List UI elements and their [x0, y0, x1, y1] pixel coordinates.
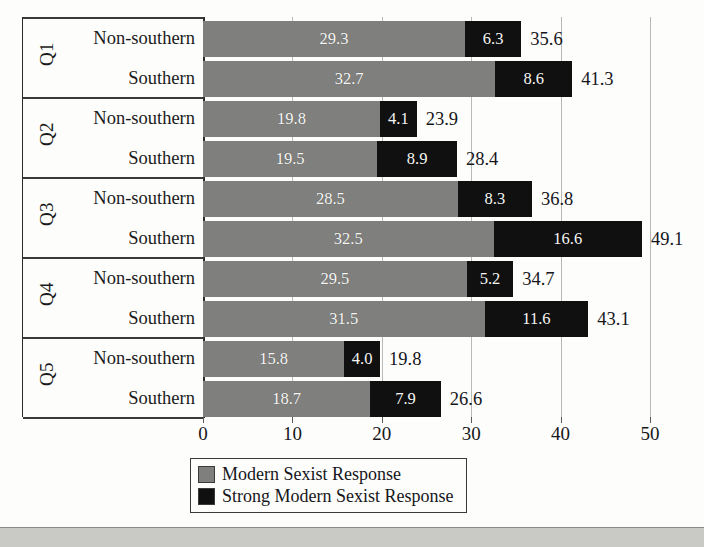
bar-value-modern: 28.5	[203, 191, 458, 208]
bar-segment-strong: 4.0	[344, 341, 380, 377]
group-label-text: Q5	[36, 362, 58, 386]
bar-segment-modern: 18.7	[203, 381, 370, 417]
bar-segment-modern: 29.5	[203, 261, 467, 297]
bar-row: 32.516.649.1	[203, 221, 650, 257]
legend-item: Modern Sexist Response	[198, 463, 454, 485]
group-label-text: Q1	[36, 42, 58, 66]
bar-total-label: 26.6	[450, 389, 482, 410]
legend-label: Modern Sexist Response	[222, 464, 401, 485]
row-label-q3-southern: Southern	[128, 228, 195, 249]
bar-row: 19.58.928.4	[203, 141, 650, 177]
row-label-q5-non-southern: Non-southern	[93, 348, 195, 369]
bar-value-strong: 4.0	[344, 351, 380, 368]
group-label-q5: Q5	[7, 363, 87, 385]
bar-total-label: 28.4	[466, 149, 498, 170]
bar-row: 15.84.019.8	[203, 341, 650, 377]
bar-row: 29.36.335.6	[203, 21, 650, 57]
bar-value-strong: 8.3	[458, 191, 532, 208]
gridline-50	[650, 17, 651, 417]
bar-segment-strong: 11.6	[485, 301, 589, 337]
bar-total-label: 36.8	[541, 189, 573, 210]
bar-segment-modern: 29.3	[203, 21, 465, 57]
bar-value-modern: 29.3	[203, 31, 465, 48]
bar-value-modern: 18.7	[203, 391, 370, 408]
group-separator	[23, 97, 204, 99]
bar-segment-modern: 32.7	[203, 61, 495, 97]
bar-value-strong: 5.2	[467, 271, 513, 288]
group-separator	[23, 177, 204, 179]
bar-segment-modern: 31.5	[203, 301, 485, 337]
bar-value-modern: 29.5	[203, 271, 467, 288]
row-label-q5-southern: Southern	[128, 388, 195, 409]
group-label-text: Q4	[36, 282, 58, 306]
bar-value-modern: 15.8	[203, 351, 344, 368]
group-label-text: Q2	[36, 122, 58, 146]
bar-value-strong: 4.1	[380, 111, 417, 128]
bar-row: 31.511.643.1	[203, 301, 650, 337]
group-separator	[23, 337, 204, 339]
bar-total-label: 49.1	[651, 229, 683, 250]
bar-value-strong: 7.9	[370, 391, 441, 408]
row-label-q4-non-southern: Non-southern	[93, 268, 195, 289]
bar-segment-strong: 6.3	[465, 21, 521, 57]
bar-value-modern: 32.7	[203, 71, 495, 88]
category-label-column: Q1Non-southernSouthernQ2Non-southernSout…	[22, 17, 204, 417]
row-label-q2-non-southern: Non-southern	[93, 108, 195, 129]
bar-segment-modern: 32.5	[203, 221, 494, 257]
bar-segment-modern: 19.8	[203, 101, 380, 137]
legend-item: Strong Modern Sexist Response	[198, 485, 454, 507]
row-label-q4-southern: Southern	[128, 308, 195, 329]
page-scan-band	[0, 527, 704, 547]
legend-swatch-icon	[198, 466, 215, 483]
row-label-q1-southern: Southern	[128, 68, 195, 89]
bar-row: 18.77.926.6	[203, 381, 650, 417]
bar-value-strong: 8.6	[495, 71, 572, 88]
x-tick-label-20: 20	[352, 423, 412, 445]
bar-total-label: 41.3	[581, 69, 613, 90]
bar-row: 29.55.234.7	[203, 261, 650, 297]
x-tick-label-10: 10	[262, 423, 322, 445]
x-tick-label-0: 0	[173, 423, 233, 445]
bar-total-label: 34.7	[522, 269, 554, 290]
bar-value-modern: 32.5	[203, 231, 494, 248]
group-separator	[23, 257, 204, 259]
bar-segment-strong: 8.6	[495, 61, 572, 97]
bar-segment-modern: 28.5	[203, 181, 458, 217]
x-tick-label-30: 30	[441, 423, 501, 445]
x-tick-label-50: 50	[620, 423, 680, 445]
bar-value-strong: 8.9	[377, 151, 457, 168]
group-separator	[23, 17, 204, 19]
group-label-q2: Q2	[7, 123, 87, 145]
legend-swatch-icon	[198, 488, 215, 505]
bar-row: 32.78.641.3	[203, 61, 650, 97]
group-separator	[23, 417, 204, 419]
group-label-text: Q3	[36, 202, 58, 226]
chart-legend: Modern Sexist ResponseStrong Modern Sexi…	[190, 458, 467, 513]
bar-value-modern: 31.5	[203, 311, 485, 328]
bar-segment-strong: 8.9	[377, 141, 457, 177]
bar-total-label: 19.8	[389, 349, 421, 370]
bar-value-modern: 19.8	[203, 111, 380, 128]
group-label-q1: Q1	[7, 43, 87, 65]
legend-label: Strong Modern Sexist Response	[222, 486, 454, 507]
group-label-q3: Q3	[7, 203, 87, 225]
bar-total-label: 35.6	[530, 29, 562, 50]
row-label-q3-non-southern: Non-southern	[93, 188, 195, 209]
x-tick-label-40: 40	[531, 423, 591, 445]
bar-segment-strong: 8.3	[458, 181, 532, 217]
row-label-q1-non-southern: Non-southern	[93, 28, 195, 49]
bar-segment-modern: 15.8	[203, 341, 344, 377]
bar-value-strong: 11.6	[485, 311, 589, 328]
bar-segment-strong: 5.2	[467, 261, 513, 297]
bar-total-label: 23.9	[426, 109, 458, 130]
group-label-q4: Q4	[7, 283, 87, 305]
bar-value-strong: 16.6	[494, 231, 642, 248]
bar-row: 19.84.123.9	[203, 101, 650, 137]
bar-segment-strong: 4.1	[380, 101, 417, 137]
bar-value-modern: 19.5	[203, 151, 377, 168]
bar-total-label: 43.1	[597, 309, 629, 330]
bar-segment-modern: 19.5	[203, 141, 377, 177]
bar-row: 28.58.336.8	[203, 181, 650, 217]
row-label-q2-southern: Southern	[128, 148, 195, 169]
